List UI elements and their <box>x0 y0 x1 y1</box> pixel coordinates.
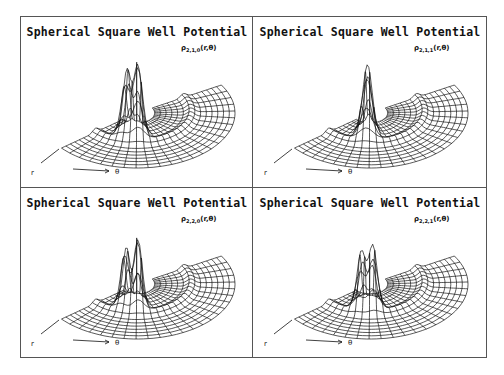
surface-plot: rθ <box>254 17 486 187</box>
r-axis-arrow <box>41 320 59 334</box>
function-args: (r,θ) <box>433 44 449 52</box>
mesh-line <box>387 104 466 111</box>
plot-title: Spherical Square Well Potential <box>254 25 486 39</box>
r-axis-label: r <box>31 340 34 348</box>
theta-axis-arrow <box>306 340 342 342</box>
quantum-numbers: 2,1,0 <box>186 47 200 53</box>
plot-title: Spherical Square Well Potential <box>21 196 253 210</box>
mesh-line <box>62 256 236 339</box>
plot-panel-2: rθ Spherical Square Well Potential ρ2,1,… <box>254 17 486 187</box>
function-label: ρ2,2,0(r,θ) <box>181 215 217 224</box>
surface-plot: rθ <box>21 17 253 187</box>
mesh-line <box>154 104 233 111</box>
theta-axis-arrow <box>73 340 109 342</box>
plot-panel-4: rθ Spherical Square Well Potential ρ2,2,… <box>254 188 486 358</box>
r-axis-label: r <box>264 169 267 177</box>
theta-axis-arrow <box>73 169 109 171</box>
r-axis-arrow <box>41 149 59 163</box>
plot-title: Spherical Square Well Potential <box>254 196 486 210</box>
r-axis-label: r <box>31 169 34 177</box>
r-axis-label: r <box>264 340 267 348</box>
function-label: ρ2,2,1(r,θ) <box>414 215 450 224</box>
mesh-line <box>356 279 387 294</box>
mesh-line <box>152 256 221 279</box>
mesh-line <box>387 275 466 282</box>
mesh-line <box>369 72 370 168</box>
plot-panel-3: rθ Spherical Square Well Potential ρ2,2,… <box>21 188 253 358</box>
theta-arrowhead <box>105 342 109 344</box>
quantum-numbers: 2,1,1 <box>419 47 433 53</box>
quantum-numbers: 2,2,0 <box>186 218 200 224</box>
function-args: (r,θ) <box>433 215 449 223</box>
mesh-line <box>295 85 469 168</box>
mesh-line <box>317 93 440 152</box>
surface-plot: rθ <box>21 188 253 358</box>
mesh-line <box>321 95 434 149</box>
mesh-line <box>136 62 137 168</box>
function-args: (r,θ) <box>200 44 216 52</box>
mesh-line <box>385 256 454 279</box>
mesh-line <box>62 85 236 168</box>
r-axis-arrow <box>274 320 292 334</box>
theta-axis-label: θ <box>348 339 352 347</box>
r-axis-arrow <box>274 149 292 163</box>
theta-axis-label: θ <box>115 168 119 176</box>
mesh-line <box>136 238 137 339</box>
mesh-line <box>385 85 454 108</box>
theta-axis-label: θ <box>348 168 352 176</box>
function-label: ρ2,1,0(r,θ) <box>181 44 217 53</box>
surface-plot: rθ <box>254 188 486 358</box>
quantum-numbers: 2,2,1 <box>419 218 433 224</box>
theta-arrowhead <box>338 342 342 344</box>
theta-arrowhead <box>105 171 109 173</box>
mesh-line <box>123 279 154 294</box>
mesh-line <box>333 289 363 335</box>
plot-title: Spherical Square Well Potential <box>21 25 253 39</box>
mesh-line <box>356 108 387 122</box>
theta-arrowhead <box>338 171 342 173</box>
theta-axis-arrow <box>306 169 342 171</box>
function-args: (r,θ) <box>200 215 216 223</box>
mesh-line <box>345 255 366 338</box>
mesh-line <box>152 85 221 108</box>
theta-axis-label: θ <box>115 339 119 347</box>
plot-panel-1: rθ Spherical Square Well Potential ρ2,1,… <box>21 17 253 187</box>
mesh-line <box>154 275 233 282</box>
mesh-line <box>330 95 422 138</box>
function-label: ρ2,1,1(r,θ) <box>414 44 450 53</box>
